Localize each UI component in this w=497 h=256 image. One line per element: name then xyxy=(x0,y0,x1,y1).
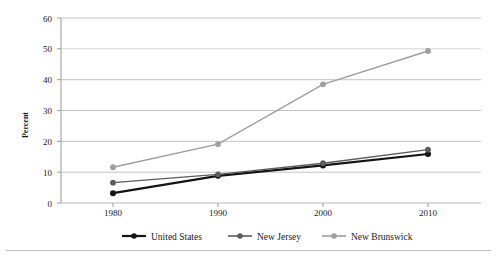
legend-item-united-states[interactable]: United States xyxy=(122,232,202,242)
legend-label-new-brunswick: New Brunswick xyxy=(351,232,413,242)
legend-label-new-jersey: New Jersey xyxy=(257,232,301,242)
y-tick-label-20: 20 xyxy=(43,137,53,147)
data-point-new-jersey-2000[interactable] xyxy=(320,160,326,166)
series-line-new-brunswick xyxy=(113,51,428,167)
x-tick-label-2000: 2000 xyxy=(314,208,333,218)
footer-rule xyxy=(6,250,491,251)
data-point-united-states-1980[interactable] xyxy=(110,190,116,196)
line-chart: 60 50 40 30 20 10 0 Percent 1980 1990 20… xyxy=(0,0,497,256)
x-tick-label-1980: 1980 xyxy=(104,208,123,218)
y-tick-label-0: 0 xyxy=(48,199,53,209)
y-tick-label-60: 60 xyxy=(43,14,53,24)
y-axis-title: Percent xyxy=(21,112,30,138)
legend-item-new-brunswick[interactable]: New Brunswick xyxy=(322,232,413,242)
x-tick-label-2010: 2010 xyxy=(419,208,438,218)
legend-label-united-states: United States xyxy=(151,232,202,242)
data-point-new-jersey-1980[interactable] xyxy=(110,180,116,186)
chart-figure: 60 50 40 30 20 10 0 Percent 1980 1990 20… xyxy=(0,0,497,256)
y-tick-label-10: 10 xyxy=(43,168,53,178)
legend-marker-united-states xyxy=(131,233,137,239)
y-axis xyxy=(57,18,61,203)
data-point-new-brunswick-2000[interactable] xyxy=(320,81,326,87)
series-new-brunswick xyxy=(110,48,431,170)
chart-legend: United States New Jersey New Brunswick xyxy=(122,232,413,242)
y-tick-label-40: 40 xyxy=(43,75,53,85)
series-layer xyxy=(110,48,431,196)
x-tick-label-1990: 1990 xyxy=(209,208,228,218)
x-axis xyxy=(113,203,428,207)
series-line-new-jersey xyxy=(113,150,428,183)
data-point-new-brunswick-1990[interactable] xyxy=(215,141,221,147)
data-point-new-jersey-2010[interactable] xyxy=(425,147,431,153)
y-tick-labels: 60 50 40 30 20 10 0 xyxy=(43,14,53,209)
y-tick-label-50: 50 xyxy=(43,44,53,54)
x-tick-labels: 1980 1990 2000 2010 xyxy=(104,208,438,218)
gridlines xyxy=(61,18,481,203)
y-tick-label-30: 30 xyxy=(43,106,53,116)
series-new-jersey xyxy=(110,147,431,186)
data-point-new-jersey-1990[interactable] xyxy=(215,171,221,177)
legend-item-new-jersey[interactable]: New Jersey xyxy=(228,232,301,242)
legend-marker-new-jersey xyxy=(237,233,243,239)
data-point-new-brunswick-2010[interactable] xyxy=(425,48,431,54)
legend-marker-new-brunswick xyxy=(331,233,337,239)
data-point-new-brunswick-1980[interactable] xyxy=(110,164,116,170)
series-line-united-states xyxy=(113,154,428,193)
